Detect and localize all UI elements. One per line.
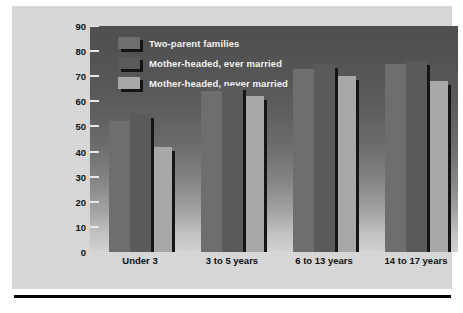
bottom-divider-rule — [14, 295, 451, 298]
y-axis-tick-mark — [90, 201, 99, 203]
y-axis-tick-mark — [90, 100, 99, 102]
legend-label: Mother-headed, ever married — [149, 58, 282, 69]
bar-0-1 — [130, 114, 151, 252]
y-axis-tick-label: 10 — [62, 221, 86, 232]
bar-0-2 — [151, 147, 172, 252]
legend-swatch-shadow-bottom — [121, 89, 143, 92]
bar-shadow — [264, 100, 267, 252]
bar-1-0 — [201, 91, 222, 252]
bar-shadow — [243, 90, 246, 252]
bar-1-2 — [243, 96, 264, 252]
legend-label: Mother-headed, never married — [149, 78, 288, 89]
x-axis-category-labels: Under 33 to 5 years6 to 13 years14 to 17… — [90, 255, 458, 273]
plot-area: Two-parent familiesMother-headed, ever m… — [90, 26, 458, 252]
y-axis-tick-mark — [90, 151, 99, 153]
y-axis-tick-label: 70 — [62, 71, 86, 82]
y-axis-tick-labels: 0102030405060708090 — [62, 26, 86, 252]
legend-item[interactable]: Mother-headed, never married — [118, 74, 288, 92]
bar-shadow — [172, 151, 175, 252]
bar-3-1 — [406, 61, 427, 252]
legend-label: Two-parent families — [149, 38, 239, 49]
y-axis-tick-label: 30 — [62, 171, 86, 182]
y-axis-tick-label: 90 — [62, 21, 86, 32]
bar-2-2 — [335, 76, 356, 252]
y-axis-tick-label: 80 — [62, 46, 86, 57]
y-axis-tick-mark — [90, 226, 99, 228]
legend-swatch-shadow-bottom — [121, 69, 143, 72]
y-axis-tick-mark — [90, 50, 99, 52]
bar-3-0 — [385, 64, 406, 252]
bar-shadow — [448, 85, 451, 252]
bar-shadow — [151, 118, 154, 252]
legend-item[interactable]: Mother-headed, ever married — [118, 54, 288, 72]
bar-3-2 — [427, 81, 448, 252]
figure-panel: Percentage of employed mothers 010203040… — [12, 6, 452, 289]
y-axis-tick-label: 60 — [62, 96, 86, 107]
chart-page: Percentage of employed mothers 010203040… — [0, 0, 463, 313]
legend-swatch-icon — [118, 57, 140, 69]
y-axis-tick-label: 20 — [62, 196, 86, 207]
y-axis-tick-label: 50 — [62, 121, 86, 132]
y-axis-tick-mark — [90, 176, 99, 178]
chart-legend: Two-parent familiesMother-headed, ever m… — [118, 34, 288, 94]
bar-0-0 — [109, 121, 130, 252]
x-axis-category-label: Under 3 — [122, 255, 157, 266]
bar-shadow — [356, 80, 359, 252]
y-axis-tick-mark — [90, 26, 99, 27]
x-axis-category-label: 14 to 17 years — [385, 255, 448, 266]
legend-item[interactable]: Two-parent families — [118, 34, 288, 52]
bar-2-0 — [293, 69, 314, 252]
bar-shadow — [335, 68, 338, 252]
x-axis-category-label: 3 to 5 years — [206, 255, 258, 266]
bar-shadow — [427, 65, 430, 252]
x-axis-category-label: 6 to 13 years — [295, 255, 353, 266]
y-axis-tick-label: 40 — [62, 146, 86, 157]
y-axis-tick-mark — [90, 75, 99, 77]
legend-swatch-icon — [118, 37, 140, 49]
legend-swatch-icon — [118, 77, 140, 89]
legend-swatch-shadow-bottom — [121, 49, 143, 52]
y-axis-tick-mark — [90, 125, 99, 127]
bar-2-1 — [314, 64, 335, 252]
y-axis-tick-label: 0 — [62, 247, 86, 258]
bar-1-1 — [222, 86, 243, 252]
